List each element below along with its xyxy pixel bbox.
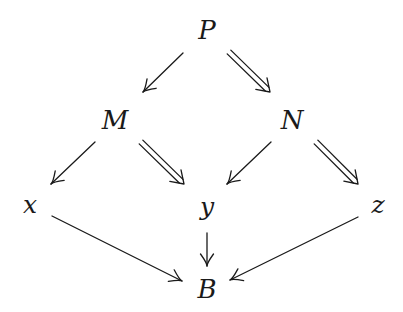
arrow-P-to-N bbox=[227, 50, 270, 92]
node-x: x bbox=[23, 192, 37, 217]
node-M: M bbox=[102, 107, 129, 133]
node-B: B bbox=[197, 276, 216, 302]
commutative-diagram: P M N x y z B bbox=[0, 0, 403, 312]
node-N: N bbox=[281, 107, 304, 133]
arrows-layer bbox=[0, 0, 403, 312]
arrow-N-to-y bbox=[227, 142, 271, 184]
arrow-P-to-M bbox=[143, 53, 183, 92]
arrow-M-to-y bbox=[139, 140, 184, 184]
arrow-N-to-z bbox=[314, 140, 358, 184]
arrow-z-to-B bbox=[230, 217, 358, 281]
node-y: y bbox=[200, 194, 214, 219]
arrow-y-to-B bbox=[201, 233, 214, 266]
node-P: P bbox=[198, 17, 216, 43]
arrow-x-to-B bbox=[52, 216, 182, 281]
arrow-M-to-x bbox=[51, 142, 95, 184]
node-z: z bbox=[371, 192, 384, 217]
